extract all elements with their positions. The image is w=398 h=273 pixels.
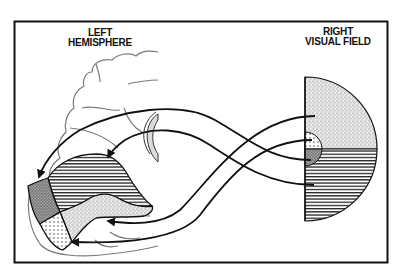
left-hemisphere-label-line2: HEMISPHERE bbox=[52, 38, 148, 48]
calcarine-crescent bbox=[147, 114, 158, 162]
right-visual-field-label-line2: VISUAL FIELD bbox=[290, 37, 386, 47]
visual-field bbox=[305, 77, 377, 221]
left-hemisphere-label: LEFT HEMISPHERE bbox=[52, 28, 148, 48]
right-visual-field-label: RIGHT VISUAL FIELD bbox=[290, 27, 386, 47]
